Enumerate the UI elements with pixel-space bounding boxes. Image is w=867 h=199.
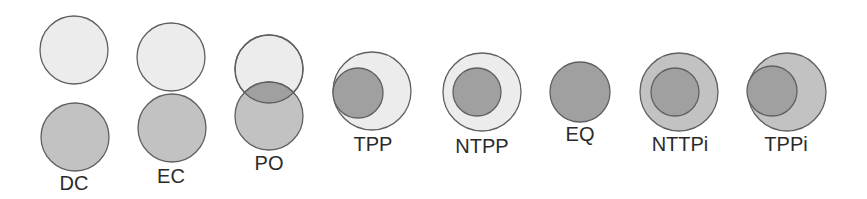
label-eq: EQ bbox=[566, 123, 595, 145]
region-ec-a-circle bbox=[137, 23, 205, 91]
label-ntpp: NTPP bbox=[455, 135, 508, 157]
region-tppi-b-circle bbox=[747, 66, 797, 116]
diagram-background bbox=[0, 0, 867, 199]
region-eq-a-circle bbox=[550, 62, 610, 122]
region-dc-a-circle bbox=[40, 16, 108, 84]
region-tpp-b-circle bbox=[333, 68, 383, 118]
label-nttpi: NTTPi bbox=[652, 133, 709, 155]
label-po: PO bbox=[255, 152, 284, 174]
label-tppi: TPPi bbox=[764, 133, 807, 155]
region-dc-b-circle bbox=[41, 103, 109, 171]
relation-nttpi: NTTPi bbox=[640, 53, 718, 155]
region-nttpi-b-circle bbox=[651, 68, 699, 116]
label-tpp: TPP bbox=[354, 133, 393, 155]
label-dc: DC bbox=[60, 172, 89, 194]
label-ec: EC bbox=[157, 165, 185, 187]
region-ntpp-b-circle bbox=[453, 68, 501, 116]
region-ec-b-circle bbox=[138, 94, 206, 162]
rcc8-diagram: DCECPOTPPNTPPEQNTTPiTPPi bbox=[0, 0, 867, 199]
